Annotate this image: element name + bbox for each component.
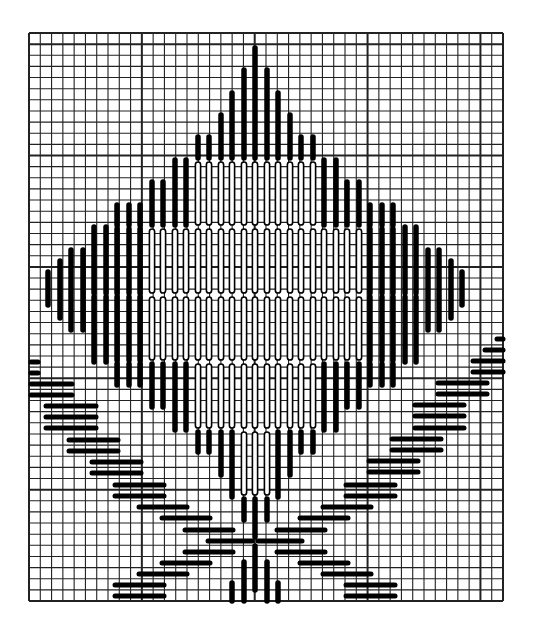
stitch-vertical-hollow	[252, 432, 257, 495]
stitch-vertical-hollow	[310, 364, 315, 428]
stitch-vertical-hollow	[275, 364, 280, 428]
stitch-vertical-hollow	[252, 229, 257, 293]
stitch-vertical-hollow	[298, 229, 303, 293]
stitch-vertical-hollow	[218, 364, 223, 428]
stitch-vertical-hollow	[275, 162, 280, 225]
stitch-vertical-hollow	[298, 364, 303, 428]
stitch-vertical-hollow	[241, 297, 246, 360]
stitch-vertical-hollow	[344, 297, 349, 360]
stitch-vertical-hollow	[172, 297, 177, 360]
stitch-vertical-hollow	[287, 364, 292, 428]
stitch-vertical-hollow	[183, 229, 188, 293]
stitch-vertical-hollow	[310, 162, 315, 225]
stitch-vertical-hollow	[275, 229, 280, 293]
stitch-vertical-hollow	[356, 297, 361, 360]
stitch-vertical-hollow	[252, 162, 257, 225]
stitch-vertical-hollow	[287, 229, 292, 293]
stitch-chart	[0, 0, 533, 625]
stitch-vertical-hollow	[241, 162, 246, 225]
stitch-vertical-hollow	[287, 162, 292, 225]
stitch-vertical-hollow	[241, 229, 246, 293]
stitch-vertical-hollow	[264, 364, 269, 428]
stitch-vertical-hollow	[195, 364, 200, 428]
stitch-vertical-hollow	[206, 297, 211, 360]
stitch-vertical-hollow	[241, 432, 246, 495]
stitch-vertical-hollow	[206, 229, 211, 293]
stitch-vertical-hollow	[333, 297, 338, 360]
stitch-vertical-hollow	[218, 297, 223, 360]
stitch-vertical-hollow	[321, 229, 326, 293]
stitch-vertical-hollow	[229, 229, 234, 293]
stitch-vertical-hollow	[195, 297, 200, 360]
stitch-vertical-hollow	[264, 432, 269, 495]
stitch-vertical-hollow	[356, 229, 361, 293]
stitch-vertical-hollow	[275, 297, 280, 360]
stitch-vertical-hollow	[183, 297, 188, 360]
stitch-vertical-hollow	[218, 229, 223, 293]
stitch-vertical-hollow	[160, 297, 165, 360]
stitch-vertical-hollow	[195, 162, 200, 225]
stitch-vertical-hollow	[252, 364, 257, 428]
stitch-vertical-hollow	[310, 229, 315, 293]
stitch-vertical-hollow	[241, 364, 246, 428]
stitch-vertical-hollow	[264, 162, 269, 225]
stitch-vertical-hollow	[229, 364, 234, 428]
stitch-vertical-hollow	[298, 297, 303, 360]
stitch-vertical-hollow	[310, 297, 315, 360]
stitch-vertical-hollow	[264, 297, 269, 360]
stitch-vertical-hollow	[206, 162, 211, 225]
stitch-vertical-hollow	[195, 229, 200, 293]
stitch-vertical-hollow	[264, 229, 269, 293]
stitch-vertical-hollow	[160, 229, 165, 293]
stitch-vertical-hollow	[149, 297, 154, 360]
stitch-vertical-hollow	[321, 297, 326, 360]
stitch-vertical-hollow	[287, 297, 292, 360]
stitch-vertical-hollow	[344, 229, 349, 293]
stitch-vertical-hollow	[229, 297, 234, 360]
stitch-vertical-hollow	[298, 162, 303, 225]
stitch-vertical-hollow	[229, 162, 234, 225]
stitch-vertical-hollow	[206, 364, 211, 428]
stitch-vertical-hollow	[252, 297, 257, 360]
stitch-vertical-hollow	[172, 229, 177, 293]
stitch-vertical-hollow	[149, 229, 154, 293]
stitch-vertical-hollow	[333, 229, 338, 293]
stitch-vertical-hollow	[218, 162, 223, 225]
